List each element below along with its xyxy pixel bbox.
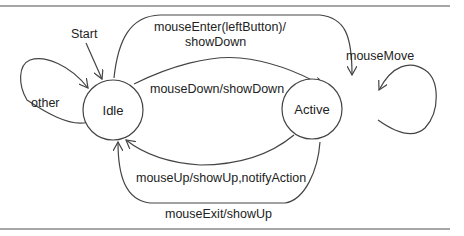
state-diagram: other Start mouseEnter(leftButton)/ show… [0,0,464,236]
label-mouseexit: mouseExit/showUp [165,207,272,221]
transition-mouseup [126,135,294,165]
state-idle-label: Idle [103,103,124,118]
start-label: Start [71,27,98,41]
state-active-label: Active [294,102,329,117]
label-mousedown: mouseDown/showDown [150,82,284,96]
start-arrow [86,43,102,79]
label-mousemove: mouseMove [346,49,414,63]
label-mouseup: mouseUp/showUp,notifyAction [136,171,306,185]
transition-other [21,59,88,123]
label-other: other [31,96,60,110]
label-mouseenter-line1: mouseEnter(leftButton)/ [154,20,287,34]
label-mouseenter-line2: showDown [185,35,246,49]
transition-mousemove [378,65,436,133]
